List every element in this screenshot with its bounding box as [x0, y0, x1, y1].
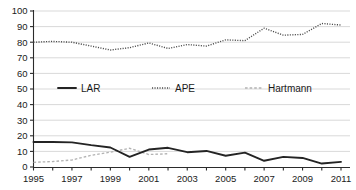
x-tick-label-2003: 2003: [177, 173, 198, 184]
chart-legend: LAR APE Hartmann: [58, 83, 312, 94]
x-tick-label-2007: 2007: [254, 173, 275, 184]
x-tick-label-2011: 2011: [331, 173, 351, 184]
chart-svg: 0102030405060708090100 19951997199920012…: [0, 0, 356, 190]
legend-label-lar: LAR: [81, 83, 100, 94]
x-tick-label-2005: 2005: [215, 173, 236, 184]
y-tick-label-0: 0: [22, 161, 27, 172]
x-tick-label-2009: 2009: [292, 173, 313, 184]
y-axis: [30, 10, 34, 167]
y-tick-label-50: 50: [17, 83, 28, 94]
legend-item-lar[interactable]: LAR: [58, 83, 100, 94]
y-tick-label-40: 40: [17, 99, 28, 110]
x-tick-label-1997: 1997: [61, 173, 82, 184]
x-axis: [34, 167, 351, 171]
y-tick-label-30: 30: [17, 115, 28, 126]
legend-item-ape[interactable]: APE: [152, 83, 195, 94]
y-tick-label-90: 90: [17, 21, 28, 32]
x-tick-label-1999: 1999: [100, 173, 121, 184]
y-tick-label-100: 100: [12, 5, 28, 16]
y-tick-label-60: 60: [17, 68, 28, 79]
x-tick-label-1995: 1995: [23, 173, 44, 184]
x-tick-label-2001: 2001: [138, 173, 159, 184]
y-tick-labels: 0102030405060708090100: [12, 5, 28, 172]
y-tick-label-20: 20: [17, 130, 28, 141]
x-tick-labels: 199519971999200120032005200720092011: [23, 173, 351, 184]
series-line-ape: [34, 23, 342, 50]
series-line-lar: [34, 142, 342, 164]
legend-item-hartmann[interactable]: Hartmann: [245, 83, 312, 94]
line-chart: 0102030405060708090100 19951997199920012…: [0, 0, 356, 190]
gridlines: [34, 11, 351, 151]
legend-label-hartmann: Hartmann: [268, 83, 312, 94]
plot-series: [34, 23, 342, 163]
y-tick-label-80: 80: [17, 37, 28, 48]
y-tick-label-10: 10: [17, 146, 28, 157]
legend-label-ape: APE: [175, 83, 195, 94]
y-tick-label-70: 70: [17, 52, 28, 63]
